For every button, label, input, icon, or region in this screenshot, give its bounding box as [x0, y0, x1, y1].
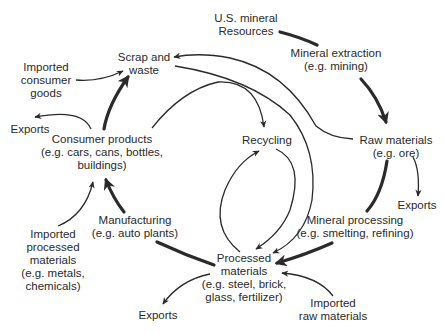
node-label: Imported [23, 61, 68, 73]
node-processed-materials: Processed materials (e.g. steel, brick, … [202, 252, 286, 303]
node-manufacturing: Manufacturing (e.g. auto plants) [92, 214, 178, 239]
node-imported-consumer-goods: Imported consumer goods [21, 61, 72, 99]
node-label: Resources [219, 25, 274, 37]
node-label: Scrap and [118, 51, 170, 63]
edge-raw-to-exports [413, 157, 418, 196]
edge-raw-to-processing [367, 161, 387, 211]
node-label: (e.g. mining) [304, 60, 368, 72]
node-label: Mineral extraction [291, 47, 382, 59]
node-label: (e.g. auto plants) [92, 227, 178, 239]
node-label: raw materials [299, 310, 368, 322]
node-label: Imported [30, 228, 75, 240]
edge-consumer-to-recycling [152, 82, 264, 128]
edge-imported-raw-to-processed [282, 273, 333, 296]
edge-extraction-to-raw [361, 79, 386, 122]
node-exports-processed: Exports [139, 309, 178, 321]
edge-resources-to-extraction [280, 32, 317, 45]
node-label: materials [30, 254, 77, 266]
node-recycling: Recycling [242, 134, 292, 146]
node-label: buildings) [77, 159, 126, 171]
node-label: waste [128, 64, 159, 76]
node-us-mineral-resources: U.S. mineral Resources [214, 12, 277, 37]
node-label: goods [30, 87, 62, 99]
node-label: Exports [398, 199, 437, 211]
node-scrap-and-waste: Scrap and waste [118, 51, 170, 76]
node-label: chemicals) [26, 280, 81, 292]
node-label: materials [221, 265, 268, 277]
node-label: (e.g. ore) [373, 147, 420, 159]
node-label: Mineral processing [307, 214, 404, 226]
materials-flow-diagram: U.S. mineral Resources Mineral extractio… [0, 0, 444, 334]
edge-imported-consumer-to-scrap [76, 71, 123, 80]
node-label: (e.g. cars, cans, bottles, [41, 146, 163, 158]
node-label: Imported [310, 297, 355, 309]
node-exports-raw: Exports [398, 199, 437, 211]
edge-recycling-to-processed [256, 149, 295, 249]
node-label: Recycling [242, 134, 292, 146]
node-mineral-processing: Mineral processing (e.g. smelting, refin… [297, 214, 414, 239]
node-label: (e.g. metals, [21, 267, 84, 279]
edge-imported-processed-to-consumer [58, 182, 93, 226]
node-label: Manufacturing [99, 214, 172, 226]
node-imported-processed-materials: Imported processed materials (e.g. metal… [21, 228, 84, 292]
node-label: (e.g. steel, brick, [202, 278, 286, 290]
node-label: (e.g. smelting, refining) [297, 227, 414, 239]
node-label: U.S. mineral [214, 12, 277, 24]
node-label: Consumer products [52, 133, 153, 145]
node-consumer-products: Consumer products (e.g. cars, cans, bott… [41, 133, 163, 171]
edge-processed-to-manufacturing [157, 242, 214, 265]
node-label: consumer [21, 74, 72, 86]
node-label: Exports [139, 309, 178, 321]
node-raw-materials: Raw materials (e.g. ore) [360, 134, 433, 159]
edge-processed-to-recycling [220, 151, 259, 252]
node-label: glass, fertilizer) [205, 291, 282, 303]
node-label: Exports [11, 123, 50, 135]
edge-consumer-to-scrap [104, 77, 128, 129]
node-imported-raw-materials: Imported raw materials [299, 297, 368, 322]
node-label: Raw materials [360, 134, 433, 146]
node-mineral-extraction: Mineral extraction (e.g. mining) [291, 47, 382, 72]
node-exports-consumer: Exports [11, 123, 50, 135]
node-label: processed [26, 241, 79, 253]
edge-manufacturing-to-consumer [106, 180, 124, 212]
node-label: Processed [217, 252, 271, 264]
